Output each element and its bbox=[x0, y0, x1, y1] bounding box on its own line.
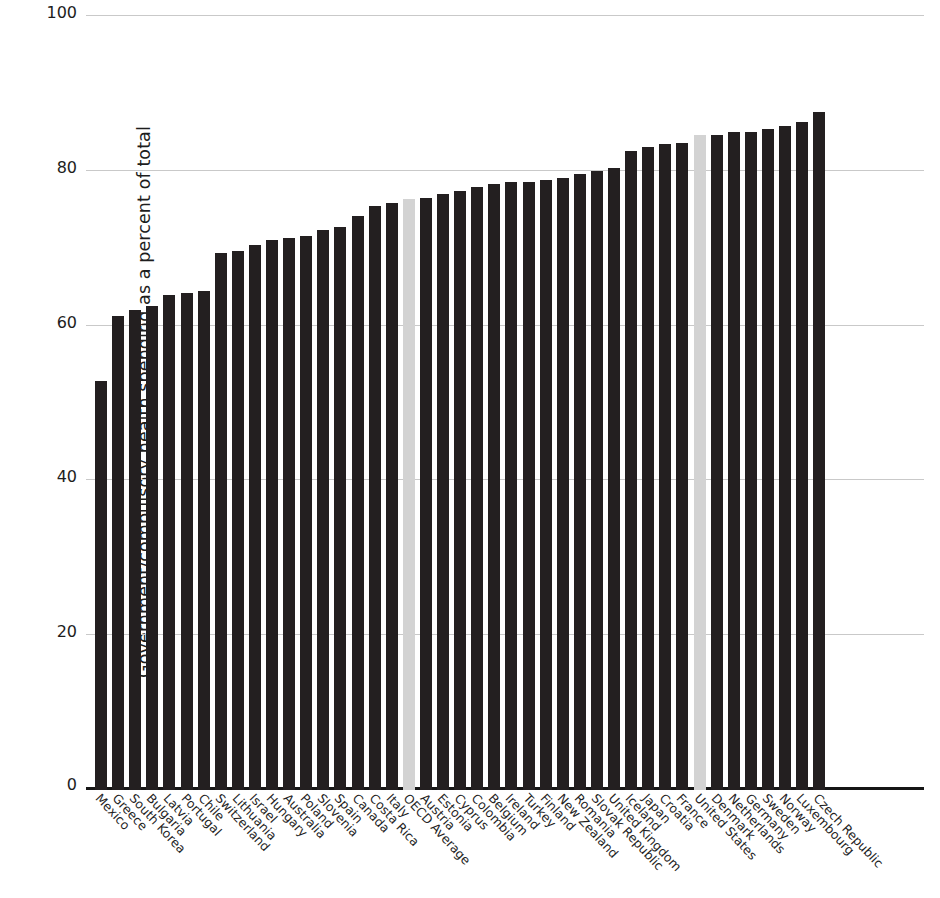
bar-united-states bbox=[694, 135, 706, 790]
bar-series bbox=[95, 16, 924, 790]
bar-united-kingdom bbox=[608, 168, 620, 790]
bar-colombia bbox=[471, 187, 483, 790]
x-axis-labels: MexicoGreeceSouth KoreaBulgariaLatviaPor… bbox=[86, 792, 924, 898]
bar-australia bbox=[283, 238, 295, 790]
plot-area: 020406080100 bbox=[86, 16, 924, 790]
bar-denmark bbox=[711, 135, 723, 790]
bar-finland bbox=[540, 180, 552, 790]
bar-slovenia bbox=[317, 230, 329, 790]
bar-latvia bbox=[163, 295, 175, 790]
bar-czech-republic bbox=[813, 112, 825, 790]
bar-hungary bbox=[266, 240, 278, 790]
y-tick-label-80: 80 bbox=[57, 158, 77, 177]
bar-slovak-republic bbox=[591, 171, 603, 790]
y-tick-label-60: 60 bbox=[57, 313, 77, 332]
chart-figure: Government/compulsory health spending as… bbox=[0, 0, 940, 898]
bar-oecd-average bbox=[403, 199, 415, 790]
bar-mexico bbox=[95, 381, 107, 790]
bar-lithuania bbox=[232, 251, 244, 790]
bar-belgium bbox=[488, 184, 500, 790]
bar-norway bbox=[779, 126, 791, 790]
bar-greece bbox=[112, 316, 124, 790]
bar-switzerland bbox=[215, 253, 227, 790]
bar-ireland bbox=[505, 182, 517, 790]
bar-japan bbox=[642, 147, 654, 790]
bar-iceland bbox=[625, 151, 637, 790]
bar-cyprus bbox=[454, 191, 466, 790]
bar-netherlands bbox=[728, 132, 740, 790]
y-tick-label-20: 20 bbox=[57, 622, 77, 641]
bar-sweden bbox=[762, 129, 774, 790]
bar-croatia bbox=[659, 144, 671, 790]
bar-costa-rica bbox=[369, 206, 381, 790]
y-tick-label-0: 0 bbox=[67, 775, 77, 794]
bar-italy bbox=[386, 203, 398, 790]
bar-luxembourg bbox=[796, 122, 808, 790]
bar-chile bbox=[198, 291, 210, 790]
bar-new-zealand bbox=[557, 178, 569, 790]
y-tick-label-40: 40 bbox=[57, 468, 77, 487]
bar-austria bbox=[420, 198, 432, 790]
bar-israel bbox=[249, 245, 261, 790]
y-tick-label-100: 100 bbox=[46, 3, 77, 22]
bar-estonia bbox=[437, 194, 449, 790]
bar-bulgaria bbox=[146, 306, 158, 790]
bar-france bbox=[676, 143, 688, 790]
bar-canada bbox=[352, 216, 364, 790]
bar-south-korea bbox=[129, 310, 141, 790]
bar-germany bbox=[745, 132, 757, 790]
bar-romania bbox=[574, 174, 586, 790]
bar-spain bbox=[334, 227, 346, 790]
bar-poland bbox=[300, 236, 312, 790]
bar-turkey bbox=[523, 182, 535, 790]
bar-portugal bbox=[181, 293, 193, 790]
